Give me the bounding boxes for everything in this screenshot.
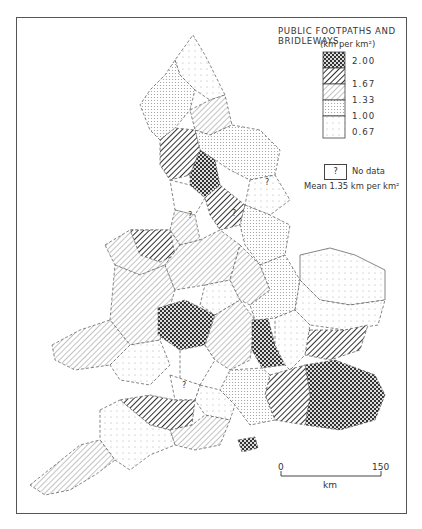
scale-bar bbox=[281, 471, 381, 476]
region-kent-sussex bbox=[305, 360, 385, 430]
no-data-label: No data bbox=[352, 166, 385, 176]
scale-end: 150 bbox=[372, 462, 389, 472]
legend-swatch-1-33 bbox=[323, 84, 345, 100]
legend-label: 1.33 bbox=[352, 95, 375, 105]
legend-swatch-1-67 bbox=[323, 68, 345, 84]
region-cornwall bbox=[30, 440, 115, 495]
legend-label: 1.67 bbox=[352, 79, 375, 89]
scale-start: 0 bbox=[278, 462, 284, 472]
no-data-marker: ? bbox=[182, 381, 186, 390]
region-isle-of-wight bbox=[238, 437, 258, 452]
legend-label: 1.00 bbox=[352, 111, 375, 121]
legend-swatch-2-00 bbox=[323, 52, 345, 68]
legend-swatch-0-67 bbox=[323, 116, 345, 138]
legend-label: 0.67 bbox=[352, 127, 375, 137]
legend-unit: (km per km²) bbox=[320, 39, 375, 49]
legend-label: 2.00 bbox=[352, 56, 375, 66]
no-data-marker: ? bbox=[188, 211, 192, 220]
no-data-marker: ? bbox=[232, 209, 236, 218]
scale-unit: km bbox=[323, 480, 337, 490]
legend-swatch-1-00 bbox=[323, 100, 345, 116]
no-data-swatch: ? bbox=[324, 164, 347, 180]
mean-label: Mean 1.35 km per km² bbox=[304, 181, 399, 191]
no-data-marker: ? bbox=[265, 178, 269, 187]
